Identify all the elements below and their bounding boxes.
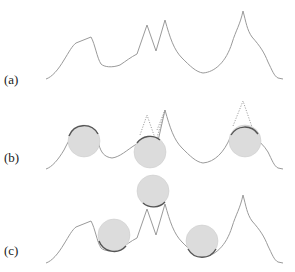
panel-a-curve — [46, 11, 283, 79]
diagram-canvas — [0, 0, 295, 272]
panel-b — [46, 101, 283, 169]
dotted-peak-right — [233, 101, 252, 127]
ball-right — [229, 125, 261, 157]
panel-c — [46, 175, 283, 263]
